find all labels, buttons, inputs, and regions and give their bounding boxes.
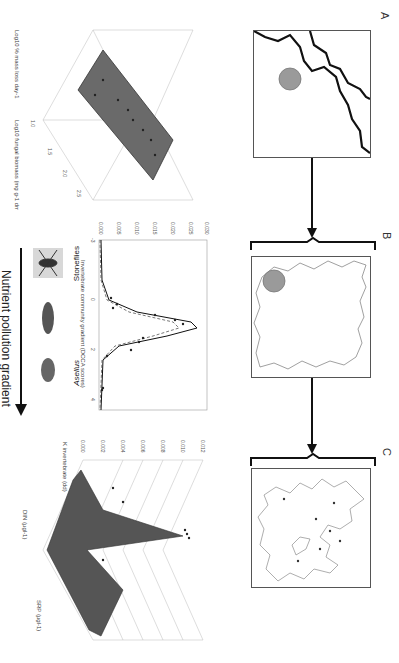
bracket-b: [249, 236, 377, 254]
map-a-outline: [254, 31, 370, 157]
stoneflies-label: Stoneflies: [72, 246, 81, 281]
svg-text:0.010: 0.010: [134, 222, 140, 235]
svg-text:2: 2: [90, 348, 96, 351]
chart-3d-plane: 1.0 1.5 2.0 2.5 Log10 % mass loss day-1 …: [8, 10, 213, 210]
svg-text:0.002: 0.002: [100, 440, 106, 453]
asellus-icon: [41, 358, 55, 382]
region-circle-a: [279, 68, 301, 90]
x-axis-label: Log10 fungal biomass (mg g-1 dm): [14, 120, 20, 210]
region-circle-b: [263, 270, 285, 292]
y-axis-label-srp: SRP (µgl-1): [36, 600, 42, 631]
svg-text:0.025: 0.025: [188, 222, 194, 235]
svg-text:0: 0: [90, 298, 96, 301]
svg-text:0.012: 0.012: [200, 440, 206, 453]
svg-text:0.004: 0.004: [120, 440, 126, 453]
regression-plane: [78, 50, 173, 180]
svg-text:2.0: 2.0: [62, 170, 68, 177]
asellus-label: Asellus: [72, 360, 81, 386]
isopod-icon: [42, 302, 54, 334]
svg-text:0.008: 0.008: [160, 440, 166, 453]
chart-k-vs-dcca: 0.0000.0050.010 0.0150.0200.0250.030 -30…: [73, 220, 213, 420]
svg-text:0.015: 0.015: [152, 222, 158, 235]
svg-text:0.000: 0.000: [80, 440, 86, 453]
svg-text:-3: -3: [90, 238, 96, 243]
gradient-arrow-icon: [15, 404, 27, 416]
gradient-label: Nutrient pollution gradient: [0, 270, 13, 407]
map-b-outline: [252, 257, 370, 377]
arrow-b-to-c: [305, 378, 319, 454]
z-axis-label: Log10 % mass loss day-1: [14, 30, 20, 99]
chart-3d-surface: 0.0000.0020.004 0.0060.0080.0100.012 DIN…: [3, 440, 213, 660]
x-axis-label-din: DIN (µgl-1): [22, 510, 28, 539]
map-c-outline: [252, 469, 370, 587]
z-axis-label-k: K invertebrate (dd): [62, 442, 68, 492]
panel-label-a: A: [379, 12, 391, 19]
species-icons: [9, 240, 69, 420]
svg-text:0.005: 0.005: [116, 222, 122, 235]
figure-canvas: A B C: [0, 0, 399, 663]
species-strip: Stoneflies Asellus Nutrient pollution gr…: [9, 240, 69, 420]
svg-text:0.006: 0.006: [140, 440, 146, 453]
svg-text:0.000: 0.000: [98, 222, 104, 235]
svg-text:0.010: 0.010: [180, 440, 186, 453]
response-surface: [47, 470, 183, 636]
svg-text:4: 4: [90, 398, 96, 401]
svg-text:1.5: 1.5: [47, 148, 53, 155]
panel-label-c: C: [381, 448, 393, 456]
map-panel-c: [251, 468, 371, 588]
svg-text:0.020: 0.020: [170, 222, 176, 235]
map-panel-b: [251, 256, 371, 378]
svg-text:2.5: 2.5: [76, 190, 82, 197]
panel-label-b: B: [381, 232, 393, 239]
svg-text:1.0: 1.0: [30, 120, 36, 127]
map-panel-a: [253, 30, 371, 158]
svg-text:0.030: 0.030: [204, 222, 210, 235]
arrow-a-to-b: [305, 158, 319, 238]
